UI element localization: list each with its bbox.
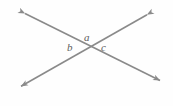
angle-label-c: c: [101, 42, 106, 53]
geometry-figure: a b c: [0, 0, 173, 106]
angle-label-b: b: [67, 42, 73, 53]
line-ne-sw: [21, 15, 147, 87]
intersecting-lines-svg: [0, 0, 173, 106]
angle-label-a: a: [84, 32, 90, 43]
line-nw-se: [25, 14, 160, 81]
